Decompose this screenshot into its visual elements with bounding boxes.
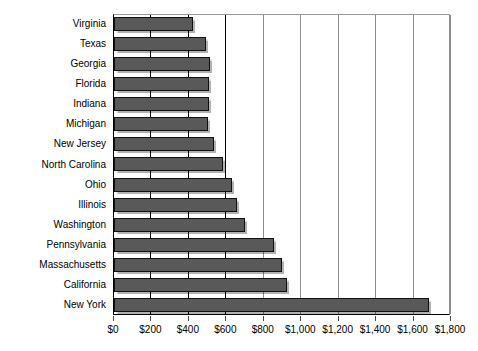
x-axis-label: $800 (252, 324, 274, 336)
y-axis-label: North Carolina (0, 159, 106, 170)
y-axis-label: Michigan (0, 118, 106, 129)
bar-row (114, 115, 451, 135)
bar-row (114, 176, 451, 196)
x-axis-tick (263, 316, 264, 321)
bar-row (114, 256, 451, 276)
bar (114, 238, 274, 252)
x-axis-tick (300, 316, 301, 321)
x-axis-label: $1,800 (435, 324, 466, 336)
x-axis-tick (188, 316, 189, 321)
y-axis-label: Texas (0, 38, 106, 49)
bar (114, 218, 245, 232)
bar (114, 137, 214, 151)
y-axis-category-labels: VirginiaTexasGeorgiaFloridaIndianaMichig… (0, 14, 110, 315)
y-axis-label: California (0, 279, 106, 290)
bar (114, 298, 429, 312)
y-axis-label: Florida (0, 78, 106, 89)
x-axis-tick (450, 316, 451, 321)
bar-row (114, 296, 451, 316)
x-axis-label: $1,200 (322, 324, 353, 336)
x-axis-label: $400 (177, 324, 199, 336)
bar (114, 97, 209, 111)
bar-series (114, 15, 449, 314)
bar (114, 117, 208, 131)
y-axis-label: Georgia (0, 58, 106, 69)
y-axis-label: Washington (0, 219, 106, 230)
y-axis-label: Pennsylvania (0, 239, 106, 250)
bar-row (114, 196, 451, 216)
y-axis-label: Illinois (0, 199, 106, 210)
bar-row (114, 236, 451, 256)
bar-row (114, 155, 451, 175)
bar-row (114, 95, 451, 115)
bar (114, 178, 232, 192)
y-axis-label: New Jersey (0, 138, 106, 149)
x-axis-tick (225, 316, 226, 321)
chart-title (0, 0, 478, 2)
bar-row (114, 216, 451, 236)
bar-row (114, 75, 451, 95)
bar (114, 198, 237, 212)
bar (114, 57, 210, 71)
x-axis-tick (113, 316, 114, 321)
y-axis-label: New York (0, 299, 106, 310)
y-axis-label: Virginia (0, 18, 106, 29)
x-axis-tick (413, 316, 414, 321)
x-axis-tick (338, 316, 339, 321)
bar-row (114, 35, 451, 55)
bar (114, 157, 223, 171)
plot-area (113, 14, 450, 315)
x-axis-tick (375, 316, 376, 321)
x-axis-label: $200 (139, 324, 161, 336)
bar-row (114, 15, 451, 35)
y-axis-label: Ohio (0, 179, 106, 190)
x-axis-label: $600 (214, 324, 236, 336)
bar (114, 258, 282, 272)
bar (114, 278, 287, 292)
bar-row (114, 55, 451, 75)
bar-chart: VirginiaTexasGeorgiaFloridaIndianaMichig… (0, 0, 478, 351)
x-axis-label: $1,000 (285, 324, 316, 336)
x-axis-label: $1,600 (397, 324, 428, 336)
x-axis-label: $1,400 (360, 324, 391, 336)
y-axis-label: Massachusetts (0, 259, 106, 270)
y-axis-label: Indiana (0, 98, 106, 109)
bar (114, 37, 206, 51)
bar (114, 17, 193, 31)
x-axis-tick (150, 316, 151, 321)
bar (114, 77, 209, 91)
bar-row (114, 135, 451, 155)
bar-row (114, 276, 451, 296)
x-axis-label: $0 (107, 324, 118, 336)
